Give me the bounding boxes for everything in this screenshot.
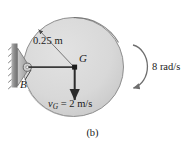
velocity-label: vG = 2 m/s bbox=[48, 99, 92, 110]
center-of-mass-label: G bbox=[79, 53, 87, 64]
pin-point-label: B bbox=[20, 79, 27, 90]
center-of-mass-point bbox=[72, 65, 77, 70]
velocity-symbol: v bbox=[48, 98, 53, 109]
figure-caption: (b) bbox=[0, 128, 185, 139]
angular-velocity-arc-arrow bbox=[133, 45, 147, 88]
angular-velocity-label: 8 rad/s bbox=[152, 62, 180, 73]
radius-label: 0.25 m bbox=[33, 36, 63, 47]
velocity-subscript: G bbox=[53, 102, 58, 111]
fixed-wall bbox=[8, 44, 17, 90]
diagram-canvas bbox=[0, 0, 185, 146]
velocity-value: = 2 m/s bbox=[61, 98, 93, 109]
figure-disk-kinematics: 0.25 m G B vG = 2 m/s 8 rad/s (b) bbox=[0, 0, 185, 146]
